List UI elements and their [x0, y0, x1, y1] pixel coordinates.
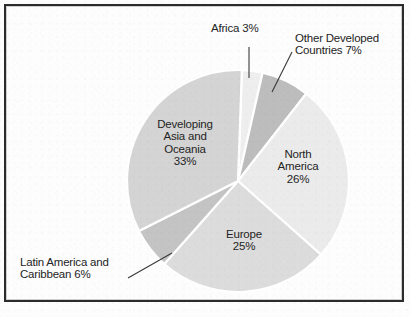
pie-chart-figure: Developing Asia and Oceania 33% North Am…: [0, 0, 410, 317]
figure-border-inner: [6, 6, 402, 300]
